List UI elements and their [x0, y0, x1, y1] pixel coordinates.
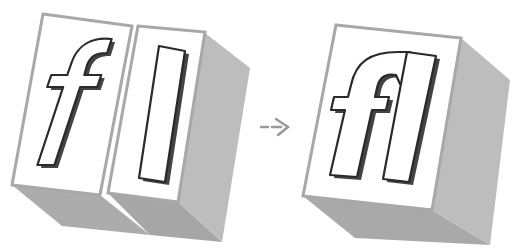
dashed-arrow-right-icon	[261, 119, 288, 135]
ligature-diagram	[0, 0, 513, 252]
l-block	[108, 26, 250, 242]
fl-ligature-block	[303, 25, 510, 245]
